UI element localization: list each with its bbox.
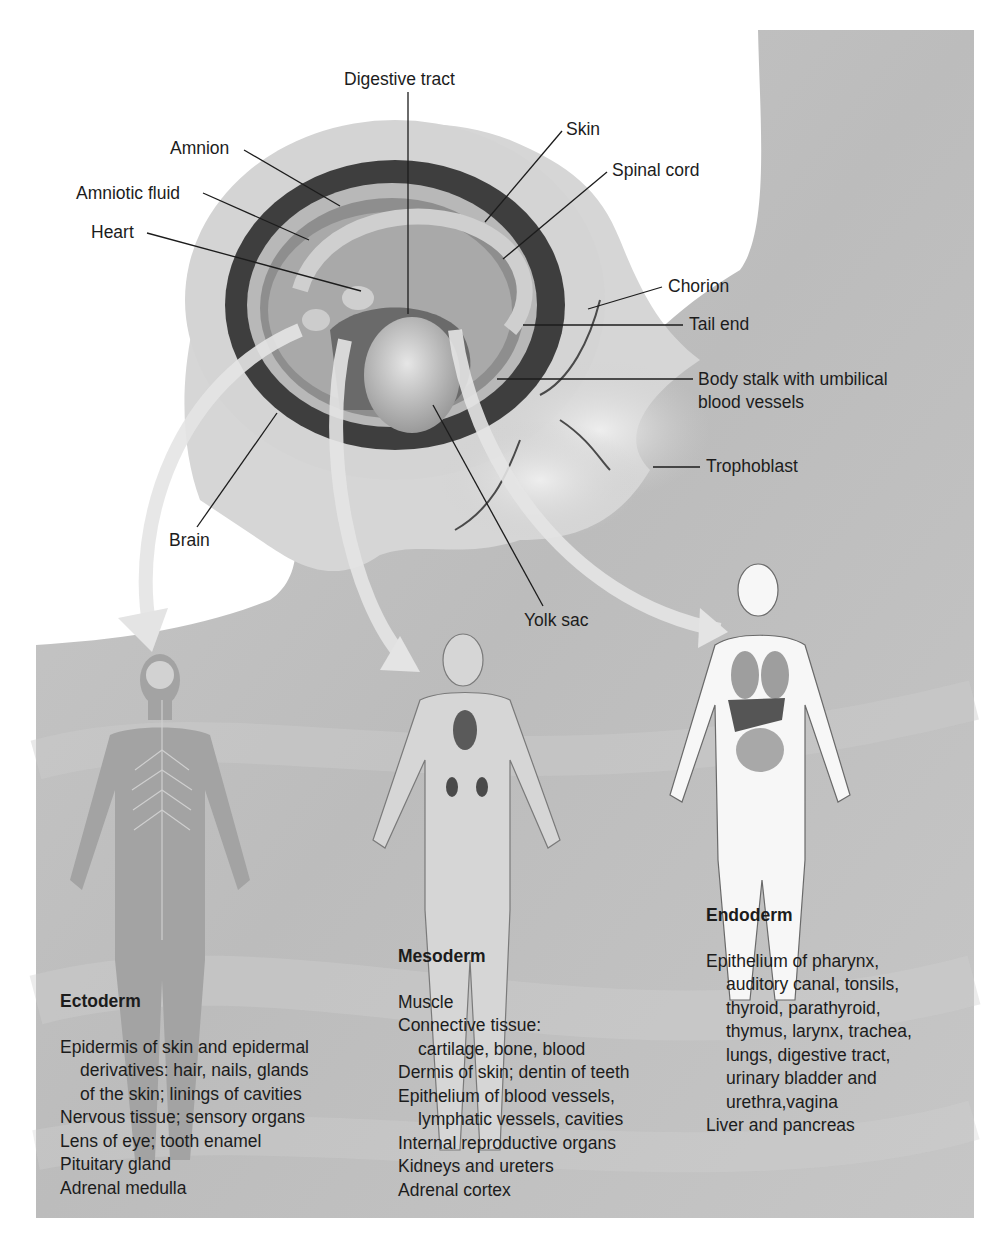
mesoderm-title: Mesoderm [398, 945, 630, 969]
label-body-stalk-line2: blood vessels [698, 391, 888, 414]
germ-layer-diagram: Digestive tract Amnion Amniotic fluid He… [0, 0, 998, 1252]
endoderm-item: Liver and pancreas [706, 1114, 912, 1138]
endoderm-column: Endoderm Epithelium of pharynx, auditory… [706, 904, 912, 1138]
ectoderm-column: Ectoderm Epidermis of skin and epidermal… [60, 990, 309, 1200]
mesoderm-item: Internal reproductive organs [398, 1132, 630, 1156]
label-body-stalk: Body stalk with umbilical blood vessels [698, 368, 888, 414]
label-heart: Heart [91, 222, 134, 242]
mesoderm-item: Kidneys and ureters [398, 1155, 630, 1179]
mesoderm-item: Connective tissue: [398, 1014, 630, 1038]
ectoderm-item: Lens of eye; tooth enamel [60, 1130, 309, 1154]
mesoderm-item: Adrenal cortex [398, 1179, 630, 1203]
ectoderm-item: derivatives: hair, nails, glands [60, 1059, 309, 1083]
ectoderm-item: Nervous tissue; sensory organs [60, 1106, 309, 1130]
endoderm-title: Endoderm [706, 904, 912, 928]
ectoderm-item: of the skin; linings of cavities [60, 1083, 309, 1107]
ectoderm-item: Epidermis of skin and epidermal [60, 1036, 309, 1060]
endoderm-item: urethra,vagina [706, 1091, 912, 1115]
endoderm-item: thymus, larynx, trachea, [706, 1020, 912, 1044]
ectoderm-title: Ectoderm [60, 990, 309, 1014]
endoderm-item: thyroid, parathyroid, [706, 997, 912, 1021]
label-skin: Skin [566, 119, 600, 139]
ectoderm-item: Pituitary gland [60, 1153, 309, 1177]
label-brain: Brain [169, 530, 210, 550]
endoderm-item: urinary bladder and [706, 1067, 912, 1091]
label-body-stalk-line1: Body stalk with umbilical [698, 368, 888, 391]
yolk-sac-shape [364, 317, 460, 433]
label-spinal-cord: Spinal cord [612, 160, 700, 180]
mesoderm-item: Dermis of skin; dentin of teeth [398, 1061, 630, 1085]
label-yolk-sac: Yolk sac [524, 610, 589, 630]
label-amniotic-fluid: Amniotic fluid [76, 183, 180, 203]
label-digestive-tract: Digestive tract [344, 69, 455, 89]
mesoderm-column: Mesoderm Muscle Connective tissue: carti… [398, 945, 630, 1202]
mesoderm-item: lymphatic vessels, cavities [398, 1108, 630, 1132]
endoderm-item: auditory canal, tonsils, [706, 973, 912, 997]
ectoderm-item: Adrenal medulla [60, 1177, 309, 1201]
mesoderm-item: Epithelium of blood vessels, [398, 1085, 630, 1109]
label-chorion: Chorion [668, 276, 729, 296]
label-tail-end: Tail end [689, 314, 749, 334]
label-amnion: Amnion [170, 138, 229, 158]
mesoderm-item: Muscle [398, 991, 630, 1015]
mesoderm-item: cartilage, bone, blood [398, 1038, 630, 1062]
label-trophoblast: Trophoblast [706, 456, 798, 476]
endoderm-item: Epithelium of pharynx, [706, 950, 912, 974]
endoderm-item: lungs, digestive tract, [706, 1044, 912, 1068]
